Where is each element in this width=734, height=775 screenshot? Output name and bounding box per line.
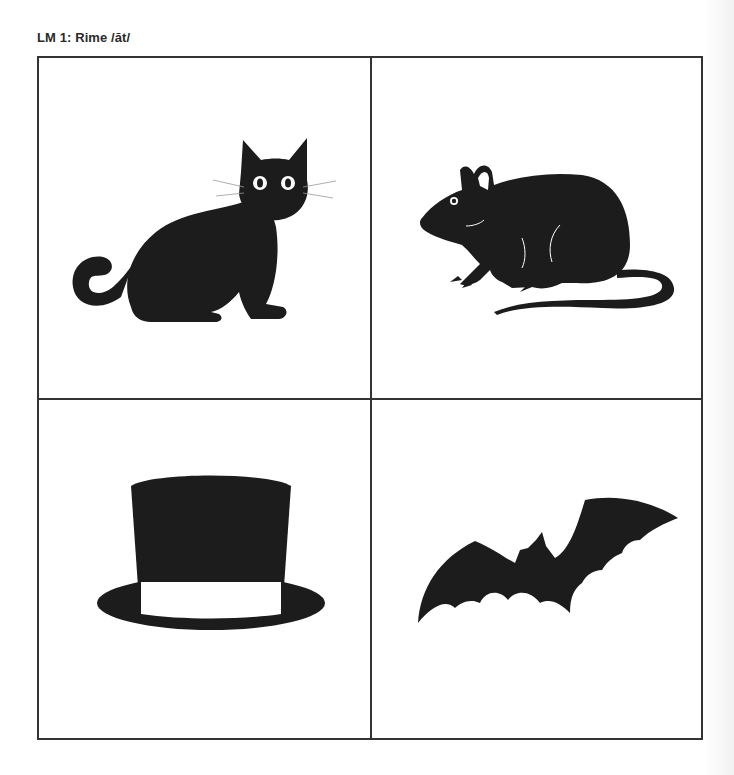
page-edge-shadow [704,0,734,775]
card-hat [39,400,372,738]
card-cat [39,58,372,400]
bat-icon [410,478,680,628]
hat-icon [91,466,331,646]
page-title: LM 1: Rime /ăt/ [37,30,130,45]
picture-card-grid [37,56,703,740]
cat-icon [61,132,341,332]
rat-icon [402,150,692,330]
card-rat [372,58,701,400]
card-bat [372,400,701,738]
